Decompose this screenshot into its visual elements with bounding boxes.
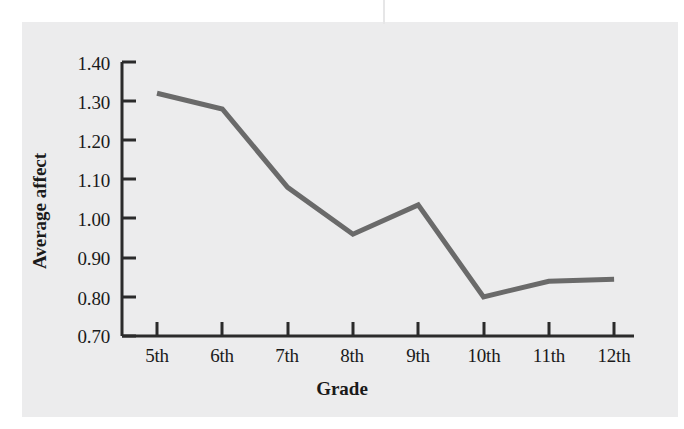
figure-container: Average affect 1.40 1.30 1.20 1.10 1.00 …	[0, 0, 684, 429]
x-axis-ticks	[157, 322, 614, 336]
data-series-line	[157, 93, 614, 297]
y-axis-ticks	[122, 62, 136, 336]
line-chart-plot	[0, 0, 684, 429]
